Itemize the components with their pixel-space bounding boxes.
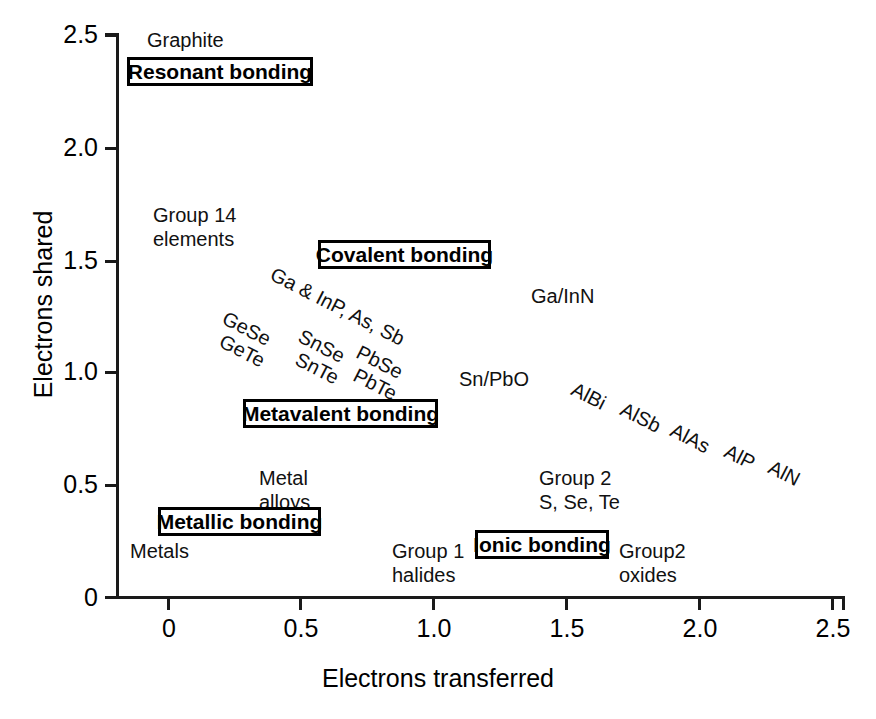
x-tick-0 (167, 599, 170, 610)
y-tick-label-2-5: 2.5 (63, 22, 98, 47)
x-tick-label-1-5: 1.5 (550, 616, 585, 641)
x-tick-1-5 (565, 599, 568, 610)
x-axis-title: Electrons transferred (0, 664, 876, 693)
x-axis-line (116, 596, 845, 599)
y-tick-label-2-0: 2.0 (63, 135, 98, 160)
y-tick-0 (105, 596, 116, 599)
y-tick-2-5 (105, 34, 116, 37)
label-aln: AlN (765, 456, 804, 490)
label-alp: AlP (721, 440, 759, 474)
label-group2-chalcogenides-line1: Group 2 (539, 466, 611, 490)
label-group1-halides-line2: halides (392, 563, 455, 587)
label-ga-inn: Ga/InN (531, 284, 594, 308)
label-graphite: Graphite (147, 28, 224, 52)
y-axis-title: Electrons shared (29, 155, 58, 455)
regime-box-covalent-bonding[interactable]: Covalent bonding (318, 240, 491, 269)
label-group1-halides-line1: Group 1 (392, 539, 464, 563)
label-alsb: AlSb (617, 398, 665, 437)
y-tick-1-5 (105, 260, 116, 263)
label-sn-pbo: Sn/PbO (459, 367, 529, 391)
x-tick-label-2-0: 2.0 (683, 616, 718, 641)
label-group2-oxides-line1: Group2 (619, 539, 686, 563)
label-albi: AlBi (568, 378, 610, 414)
label-metals: Metals (130, 539, 189, 563)
y-tick-1-0 (105, 371, 116, 374)
x-axis-right-cap (842, 596, 845, 610)
x-tick-2-0 (698, 599, 701, 610)
regime-box-ionic-bonding[interactable]: Ionic bonding (475, 530, 609, 559)
regime-box-metavalent-bonding[interactable]: Metavalent bonding (243, 399, 438, 428)
x-tick-label-0-5: 0.5 (284, 616, 319, 641)
label-metal-alloys-line1: Metal (259, 466, 308, 490)
y-tick-label-1-0: 1.0 (63, 359, 98, 384)
y-tick-0-5 (105, 484, 116, 487)
x-tick-2-5 (831, 599, 834, 610)
label-ga-inp-as-sb: Ga & InP, As, Sb (267, 263, 408, 350)
y-tick-2-0 (105, 147, 116, 150)
regime-box-metallic-bonding[interactable]: Metallic bonding (158, 507, 321, 536)
regime-box-resonant-bonding[interactable]: Resonant bonding (127, 57, 313, 86)
x-tick-label-2-5: 2.5 (816, 616, 851, 641)
x-tick-label-0: 0 (162, 616, 176, 641)
x-tick-0-5 (299, 599, 302, 610)
label-alas: AlAs (667, 419, 714, 457)
y-tick-label-1-5: 1.5 (63, 248, 98, 273)
label-group2-chalcogenides-line2: S, Se, Te (539, 490, 620, 514)
label-group2-oxides-line2: oxides (619, 563, 677, 587)
bonding-map-chart: 2.5 2.0 1.5 1.0 0.5 0 0 0.5 1.0 1.5 2.0 … (0, 0, 876, 719)
label-group14-line1: Group 14 (153, 203, 236, 227)
label-group14-line2: elements (153, 227, 234, 251)
x-tick-1-0 (432, 599, 435, 610)
y-tick-label-0-5: 0.5 (63, 472, 98, 497)
y-axis-line (116, 33, 119, 599)
y-tick-label-0: 0 (84, 585, 98, 610)
x-tick-label-1-0: 1.0 (417, 616, 452, 641)
